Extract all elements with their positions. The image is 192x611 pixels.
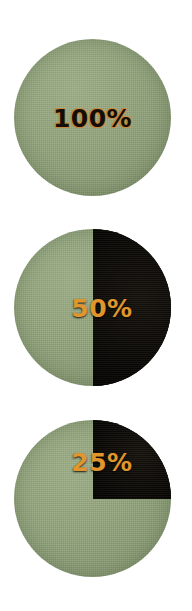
pie-chart-50: 50% (14, 229, 171, 386)
pie-chart-stack: 100% 50% 25% (0, 0, 192, 611)
pie-chart-25: 25% (14, 420, 171, 577)
pie-label-50: 50% (71, 295, 132, 320)
pie-label-100: 100% (53, 105, 132, 130)
pie-label-25: 25% (71, 450, 132, 475)
pie-chart-100: 100% (14, 39, 171, 196)
